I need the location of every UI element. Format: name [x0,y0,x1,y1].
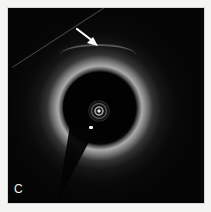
panel-label: C [14,182,23,196]
oct-image-panel: C [8,8,204,203]
arrow-icon [75,27,101,49]
guidewire-reflection [89,126,93,129]
imaging-catheter [88,100,110,122]
